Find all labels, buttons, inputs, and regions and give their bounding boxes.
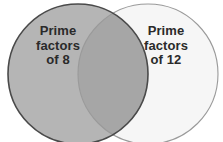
set-label-right-line-3: of 12 <box>127 53 205 68</box>
set-label-left-line-2: factors <box>21 39 95 54</box>
set-label-left: Prime factors of 8 <box>21 24 95 68</box>
venn-diagram: Prime factors of 8 Prime factors of 12 <box>0 0 223 142</box>
set-label-right-line-2: factors <box>127 39 205 54</box>
set-label-left-line-3: of 8 <box>21 53 95 68</box>
set-label-left-line-1: Prime <box>21 24 95 39</box>
venn-diagram-canvas <box>0 0 223 142</box>
set-label-right-line-1: Prime <box>127 24 205 39</box>
set-label-right: Prime factors of 12 <box>127 24 205 68</box>
